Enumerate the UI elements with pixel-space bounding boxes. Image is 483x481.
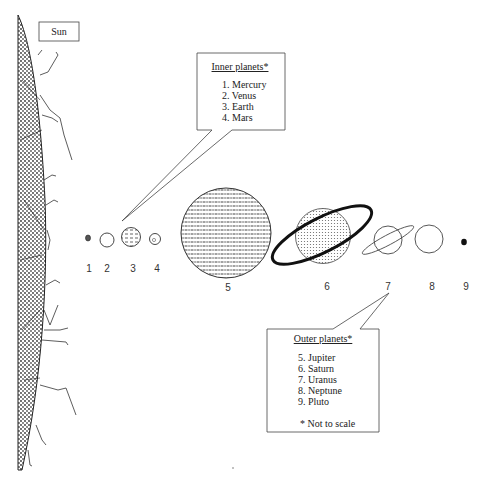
planet-number: 9 (463, 281, 469, 292)
planet-number: 4 (154, 263, 160, 274)
planet-mars (150, 234, 161, 245)
sun-label: Sun (51, 26, 67, 37)
solar-system-diagram: Sun Inner planets* 1. Mercury 2. Venus 3… (0, 0, 483, 481)
outer-planets-heading: Outer planets* (294, 333, 353, 344)
sun-label-box: Sun (39, 22, 79, 41)
outer-planets-callout: Outer planets* 5. Jupiter 6. Saturn 7. U… (267, 293, 389, 432)
inner-planet-item: 1. Mercury (222, 79, 266, 90)
outer-planet-item: 7. Uranus (298, 374, 337, 385)
planet-jupiter (181, 188, 271, 278)
outer-planet-item: 8. Neptune (298, 385, 342, 396)
inner-planet-item: 3. Earth (222, 101, 254, 112)
sun (18, 15, 76, 470)
planet-number-labels: 1 2 3 4 5 6 7 8 9 (86, 263, 469, 293)
planet-number: 8 (429, 281, 435, 292)
inner-planets-heading: Inner planets* (212, 61, 269, 72)
not-to-scale-footnote: * Not to scale (300, 418, 356, 429)
planet-number: 1 (86, 263, 92, 274)
outer-planet-item: 6. Saturn (298, 363, 334, 374)
inner-planet-item: 4. Mars (222, 112, 253, 123)
planet-number: 2 (104, 263, 110, 274)
outer-planet-item: 9. Pluto (298, 396, 329, 407)
planet-venus (100, 233, 114, 247)
outer-planet-item: 5. Jupiter (298, 352, 336, 363)
planet-number: 7 (385, 281, 391, 292)
planet-number: 6 (324, 281, 330, 292)
planet-mercury (86, 235, 91, 241)
inner-planet-item: 2. Venus (222, 90, 256, 101)
planet-neptune (415, 225, 443, 253)
planet-saturn (265, 195, 378, 275)
planet-number: 3 (130, 263, 136, 274)
planet-number: 5 (225, 282, 231, 293)
planet-earth (122, 228, 141, 247)
stray-dot (232, 467, 233, 468)
planet-uranus (360, 222, 416, 258)
planet-pluto (461, 239, 467, 245)
